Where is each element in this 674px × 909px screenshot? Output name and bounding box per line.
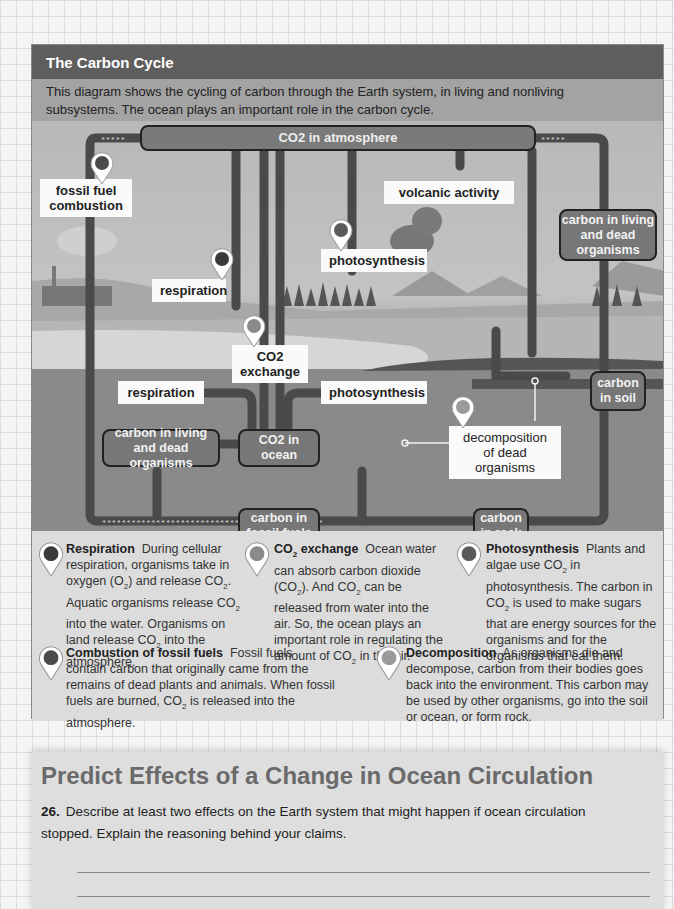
label-volcanic-activity: volcanic activity bbox=[384, 181, 514, 204]
pin-co2-exchange-icon bbox=[242, 314, 266, 348]
legend-co2-exchange-pin-icon bbox=[244, 541, 270, 577]
legend-combustion: Combustion of fossil fuels Fossil fuels … bbox=[66, 645, 336, 731]
question-number: 26. bbox=[41, 804, 60, 819]
svg-text:▸ ▸ ▸ ▸ ▸: ▸ ▸ ▸ ▸ ▸ bbox=[542, 134, 565, 141]
pin-combustion-icon bbox=[90, 151, 114, 185]
legend: Respiration During cellular respiration,… bbox=[32, 531, 663, 720]
reservoir-rock: carbon in rock bbox=[473, 508, 529, 531]
legend-respiration-pin-icon bbox=[38, 541, 64, 577]
label-fossil-fuel-combustion: fossil fuel combustion bbox=[40, 179, 132, 217]
legend-decomposition-pin-icon bbox=[376, 645, 402, 681]
legend-photosynthesis-pin-icon bbox=[456, 541, 482, 577]
pin-photosynthesis-icon bbox=[329, 218, 353, 252]
legend-combustion-pin-icon bbox=[38, 645, 64, 681]
predict-effects-section: Predict Effects of a Change in Ocean Cir… bbox=[31, 752, 664, 909]
carbon-cycle-diagram: ▸ ▸ ▸ ▸ ▸ ▸ ▸ ▸ ▸ ▸ ◂ ◂ ◂ ◂ ◂ ◂ ◂ ◂ ◂ ◂ … bbox=[32, 121, 663, 531]
pin-respiration-icon bbox=[210, 247, 234, 281]
section-heading: Predict Effects of a Change in Ocean Cir… bbox=[41, 762, 593, 790]
carbon-cycle-panel: The Carbon Cycle This diagram shows the … bbox=[31, 44, 664, 719]
answer-line-1[interactable] bbox=[77, 872, 650, 873]
reservoir-atmosphere: CO2 in atmosphere bbox=[140, 125, 536, 151]
question-26: 26.Describe at least two effects on the … bbox=[41, 801, 601, 845]
reservoir-fossil-fuels: carbon in fossil fuels bbox=[238, 508, 320, 531]
reservoir-ocean-organisms: carbon in living and dead organisms bbox=[102, 429, 220, 467]
panel-intro: This diagram shows the cycling of carbon… bbox=[32, 79, 663, 121]
legend-decomposition: Decomposition As organisms die and decom… bbox=[406, 645, 662, 725]
label-respiration-ocean: respiration bbox=[118, 381, 204, 404]
reservoir-ocean-co2: CO2 in ocean bbox=[238, 429, 320, 467]
question-text: Describe at least two effects on the Ear… bbox=[41, 804, 586, 841]
label-photosynthesis-ocean: photosynthesis bbox=[321, 381, 427, 404]
reservoir-land-organisms: carbon in living and dead organisms bbox=[559, 209, 657, 261]
reservoir-soil: carbon in soil bbox=[590, 371, 646, 411]
panel-title: The Carbon Cycle bbox=[32, 45, 663, 79]
label-photosynthesis-land: photosynthesis bbox=[321, 249, 427, 272]
pin-decomposition-icon bbox=[451, 395, 475, 429]
label-co2-exchange: CO2 exchange bbox=[232, 345, 308, 383]
label-respiration-land: respiration bbox=[152, 279, 226, 302]
label-decomposition: decomposition of dead organisms bbox=[449, 426, 561, 479]
answer-line-2[interactable] bbox=[77, 896, 650, 897]
svg-text:▸ ▸ ▸ ▸ ▸: ▸ ▸ ▸ ▸ ▸ bbox=[102, 134, 125, 141]
